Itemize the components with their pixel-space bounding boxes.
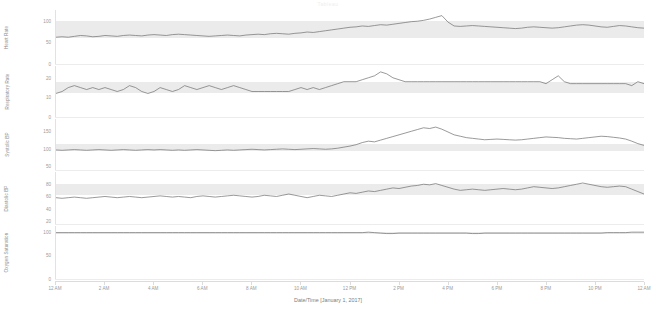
panel-oxygen-saturation: Oxygen Saturation100500 [0,226,656,279]
y-ticks-oxygen-saturation: 100500 [14,226,54,279]
y-tick: 20 [46,75,51,80]
axis-title-label: Heart Rate [5,25,10,48]
y-tick: 100 [43,146,51,151]
plot-area-oxygen-saturation[interactable] [55,226,644,279]
x-tick-label: 4 PM [442,286,453,291]
panel-systolic-bp: Systolic BP15010050 [0,119,656,170]
x-tick-mark [595,282,596,285]
x-tick-label: 8 PM [540,286,551,291]
x-tick-label: 8 AM [246,286,256,291]
axis-title-label: Oxygen Saturation [5,233,10,273]
x-tick-label: 12 AM [48,286,61,291]
panel-separator [55,117,644,118]
axis-title-label: Respiratory Rate [5,73,10,109]
x-tick-label: 12 AM [637,286,650,291]
x-tick-mark [153,282,154,285]
axis-title-systolic-bp: Systolic BP [0,119,14,170]
x-tick-mark [350,282,351,285]
plot-area-systolic-bp[interactable] [55,119,644,170]
y-tick: 100 [43,18,51,23]
x-tick-mark [399,282,400,285]
x-tick-mark [497,282,498,285]
series-line-diastolic-bp[interactable] [56,172,644,224]
panel-separator [55,64,644,65]
watermark-text: Tableau [0,1,656,7]
x-tick-mark [644,282,645,285]
x-tick-label: 10 AM [294,286,307,291]
panel-separator [55,224,644,225]
series-line-respiratory-rate[interactable] [56,66,644,117]
watermark-bar: Tableau [0,0,656,10]
axis-title-respiratory-rate: Respiratory Rate [0,66,14,117]
x-axis: 12 AM2 AM4 AM6 AM8 AM10 AM12 PM2 PM4 PM6… [55,281,644,298]
y-tick: 50 [46,164,51,169]
x-axis-title: Date/Time [January 1, 2017] [0,297,656,303]
x-tick-mark [202,282,203,285]
y-tick: 50 [46,40,51,45]
panel-respiratory-rate: Respiratory Rate20100 [0,66,656,117]
panel-heart-rate: Heart Rate100500 [0,10,656,64]
x-tick-mark [448,282,449,285]
y-tick: 100 [43,229,51,234]
y-ticks-systolic-bp: 15010050 [14,119,54,170]
panel-separator [55,279,644,280]
panel-separator [55,170,644,171]
y-tick: 50 [46,253,51,258]
y-tick: 0 [48,277,51,282]
x-tick-mark [104,282,105,285]
axis-title-label: Diastolic BP [5,185,10,211]
series-line-systolic-bp[interactable] [56,119,644,170]
plot-area-diastolic-bp[interactable] [55,172,644,224]
panel-diastolic-bp: Diastolic BP80604020 [0,172,656,224]
y-ticks-diastolic-bp: 80604020 [14,172,54,224]
y-tick: 60 [46,194,51,199]
x-tick-mark [546,282,547,285]
plot-area-respiratory-rate[interactable] [55,66,644,117]
y-ticks-heart-rate: 100500 [14,10,54,64]
x-tick-label: 2 AM [99,286,109,291]
y-tick: 10 [46,95,51,100]
y-tick: 80 [46,182,51,187]
x-tick-mark [300,282,301,285]
x-tick-label: 2 PM [393,286,404,291]
x-tick-label: 4 AM [148,286,158,291]
y-ticks-respiratory-rate: 20100 [14,66,54,117]
series-line-oxygen-saturation[interactable] [56,226,644,279]
x-tick-label: 12 PM [343,286,356,291]
x-tick-label: 10 PM [588,286,601,291]
axis-title-oxygen-saturation: Oxygen Saturation [0,226,14,279]
vitals-dashboard: Tableau Heart Rate100500Respiratory Rate… [0,0,656,322]
x-tick-mark [251,282,252,285]
x-tick-label: 6 AM [197,286,207,291]
x-tick-label: 6 PM [491,286,502,291]
y-tick: 20 [46,218,51,223]
x-tick-mark [55,282,56,285]
plot-area-heart-rate[interactable] [55,10,644,64]
y-tick: 40 [46,206,51,211]
axis-title-label: Systolic BP [5,132,10,156]
y-tick: 150 [43,129,51,134]
axis-title-heart-rate: Heart Rate [0,10,14,64]
series-line-heart-rate[interactable] [56,10,644,64]
axis-title-diastolic-bp: Diastolic BP [0,172,14,224]
